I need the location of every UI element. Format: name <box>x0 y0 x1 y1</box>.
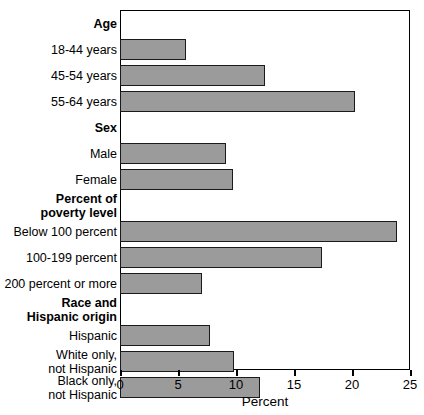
group-header-line: Age <box>0 17 117 31</box>
x-tick-label: 15 <box>274 377 314 392</box>
group-header-1: Sex <box>0 121 117 135</box>
bar <box>120 91 355 112</box>
bar <box>120 39 186 60</box>
bar-label: 55-64 years <box>0 95 117 109</box>
bar <box>120 143 226 164</box>
bar-label: Female <box>0 173 117 187</box>
group-header-line: poverty level <box>0 206 117 220</box>
x-tick-label: 25 <box>390 377 424 392</box>
group-header-line: Hispanic origin <box>0 310 117 324</box>
bar-label-line: Hispanic <box>0 329 117 343</box>
bar-label-line: 55-64 years <box>0 95 117 109</box>
bar-label: 45-54 years <box>0 69 117 83</box>
bar <box>120 221 397 242</box>
x-tick-label: 5 <box>158 377 198 392</box>
bar-label-line: Female <box>0 173 117 187</box>
group-header-line: Race and <box>0 296 117 310</box>
group-header-0: Age <box>0 17 117 31</box>
x-tick-label: 10 <box>216 377 256 392</box>
bar-label: Hispanic <box>0 329 117 343</box>
group-header-line: Sex <box>0 121 117 135</box>
x-axis-title: Percent <box>120 394 410 409</box>
bar-label: 100-199 percent <box>0 251 117 265</box>
x-tick <box>236 370 238 376</box>
group-header-3: Race andHispanic origin <box>0 296 117 324</box>
bar <box>120 325 210 346</box>
bar <box>120 351 234 372</box>
x-tick <box>120 370 122 376</box>
bar-label-line: Male <box>0 147 117 161</box>
x-tick-label: 0 <box>100 377 140 392</box>
bar-label-line: 100-199 percent <box>0 251 117 265</box>
bar-label-line: 45-54 years <box>0 69 117 83</box>
bar-label: 18-44 years <box>0 43 117 57</box>
x-tick <box>352 370 354 376</box>
bar-label-line: 18-44 years <box>0 43 117 57</box>
x-tick <box>178 370 180 376</box>
bar-label: Below 100 percent <box>0 225 117 239</box>
bar <box>120 247 322 268</box>
group-header-line: Percent of <box>0 192 117 206</box>
x-tick <box>294 370 296 376</box>
bar-label: White only,not Hispanic <box>0 348 117 376</box>
group-header-2: Percent ofpoverty level <box>0 192 117 220</box>
x-tick <box>410 370 412 376</box>
horizontal-bar-chart: Age18-44 years45-54 years55-64 yearsSexM… <box>0 0 424 415</box>
bar-label-line: 200 percent or more <box>0 277 117 291</box>
bar-label-line: Below 100 percent <box>0 225 117 239</box>
bar <box>120 273 202 294</box>
bar <box>120 65 265 86</box>
bar <box>120 169 233 190</box>
bar-label: Male <box>0 147 117 161</box>
bar-label: 200 percent or more <box>0 277 117 291</box>
x-tick-label: 20 <box>332 377 372 392</box>
bar-label-line: White only, <box>0 348 117 362</box>
